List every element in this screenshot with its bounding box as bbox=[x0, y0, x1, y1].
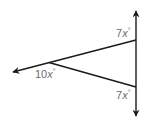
top-angle-label: 7x° bbox=[116, 27, 131, 39]
lower-segment bbox=[49, 63, 136, 88]
vertex-angle-deg: ° bbox=[53, 68, 56, 75]
angle-diagram: 7x° 10x° 7x° bbox=[0, 0, 148, 129]
top-angle-deg: ° bbox=[128, 27, 131, 34]
bottom-angle-label: 7x° bbox=[116, 89, 131, 101]
vertex-angle-coef: 10 bbox=[35, 68, 47, 80]
vertex-angle-label: 10x° bbox=[35, 68, 56, 80]
bottom-angle-deg: ° bbox=[128, 89, 131, 96]
upper-ray bbox=[13, 40, 136, 72]
